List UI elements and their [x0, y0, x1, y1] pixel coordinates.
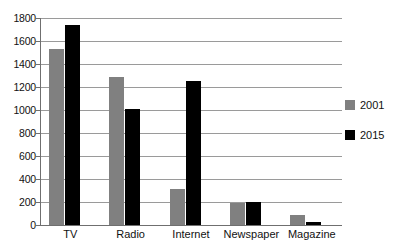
y-tick-label-800: 800 — [2, 128, 36, 138]
plot-area — [40, 18, 342, 225]
legend-label-2015: 2015 — [360, 130, 384, 141]
bar-tv-2001 — [49, 49, 64, 225]
legend: 2001 2015 — [345, 98, 384, 158]
legend-item-2001[interactable]: 2001 — [345, 98, 384, 112]
bar-magazine-2015 — [306, 222, 321, 225]
y-tick-label-1200: 1200 — [2, 82, 36, 92]
legend-label-2001: 2001 — [360, 100, 384, 111]
bar-internet-2001 — [170, 189, 185, 225]
y-axis-labels: 020040060080010001200140016001800 — [0, 0, 36, 246]
y-tick-label-1800: 1800 — [2, 13, 36, 23]
bar-newspaper-2001 — [230, 203, 245, 225]
legend-swatch-2001-icon — [345, 100, 355, 110]
y-tick-label-200: 200 — [2, 197, 36, 207]
legend-swatch-2015-icon — [345, 130, 355, 140]
x-tick-label-magazine: Magazine — [272, 228, 352, 240]
bar-magazine-2001 — [290, 215, 305, 225]
gridline-0 — [40, 225, 342, 226]
y-tick-label-400: 400 — [2, 174, 36, 184]
legend-item-2015[interactable]: 2015 — [345, 128, 384, 142]
bar-tv-2015 — [65, 25, 80, 225]
y-tick-label-1000: 1000 — [2, 105, 36, 115]
bar-internet-2015 — [186, 81, 201, 225]
bar-newspaper-2015 — [246, 202, 261, 225]
y-tick-0 — [35, 225, 41, 226]
bar-radio-2015 — [125, 109, 140, 225]
bar-chart: 020040060080010001200140016001800 TVRadi… — [0, 0, 395, 246]
bar-radio-2001 — [109, 77, 124, 225]
y-tick-label-1400: 1400 — [2, 59, 36, 69]
y-tick-label-600: 600 — [2, 151, 36, 161]
y-tick-label-1600: 1600 — [2, 36, 36, 46]
